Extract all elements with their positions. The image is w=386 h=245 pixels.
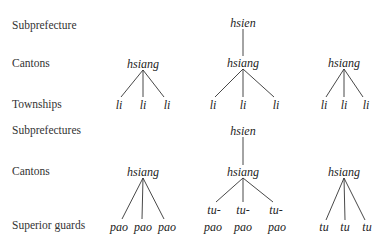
bottom-tree3-guard-node: tu	[362, 221, 371, 233]
top-tree1-township-node: li	[140, 99, 147, 111]
bottom-tree3-guard-node: tu	[319, 221, 328, 233]
bottom-tree3-canton-node: hsiang	[328, 166, 360, 178]
bottom-tree2-subprefecture-node: hsien	[230, 125, 255, 137]
top-tree2-township-node: li	[273, 99, 280, 111]
top-tree2-township-node: li	[240, 99, 247, 111]
row-label-subprefectures: Subprefectures	[12, 125, 81, 137]
top-tree3-township-node: li	[341, 99, 348, 111]
row-label-superior-guards: Superior guards	[12, 220, 85, 232]
top-tree3-township-node: li	[363, 99, 370, 111]
bottom-tree2-canton-node: hsiang	[227, 166, 259, 178]
top-tree1-canton-node: hsiang	[127, 58, 159, 70]
row-label-subprefecture: Subprefecture	[12, 20, 77, 32]
row-label-townships: Townships	[12, 99, 62, 111]
bottom-tree1-guard-node: pao	[134, 221, 152, 233]
bottom-tree2-guard-node-line2: pao	[268, 221, 286, 233]
top-tree3-canton-node: hsiang	[328, 57, 360, 69]
bottom-tree2-guard-node-line1: tu-	[269, 204, 282, 216]
bottom-tree3-guard-node: tu	[340, 221, 349, 233]
bottom-tree1-guard-node: pao	[110, 221, 128, 233]
bottom-tree1-canton-node: hsiang	[127, 166, 159, 178]
top-tree2-township-node: li	[210, 99, 217, 111]
connector-lines	[0, 0, 386, 245]
top-tree3-township-node: li	[321, 99, 328, 111]
row-label-cantons: Cantons	[12, 58, 50, 70]
top-tree2-subprefecture-node: hsien	[230, 17, 255, 29]
bottom-tree2-guard-node-line1: tu-	[236, 204, 249, 216]
top-tree1-township-node: li	[116, 99, 123, 111]
bottom-tree2-guard-node-line1: tu-	[207, 204, 220, 216]
bottom-tree2-guard-node-line2: pao	[234, 221, 252, 233]
bottom-tree2-guard-node-line2: pao	[204, 221, 222, 233]
bottom-tree1-guard-node: pao	[158, 221, 176, 233]
top-tree1-township-node: li	[164, 99, 171, 111]
top-tree2-canton-node: hsiang	[227, 57, 259, 69]
row-label-cantons: Cantons	[12, 166, 50, 178]
